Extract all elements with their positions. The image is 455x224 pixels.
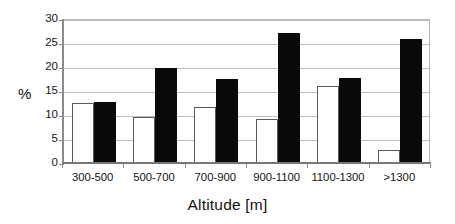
x-axis-category-label: 900-1100 [246,172,307,183]
bar-open-900-1100 [256,119,278,164]
x-axis-tick [123,163,124,168]
x-axis-tick [246,163,247,168]
gridline [63,92,429,93]
y-axis-label: % [18,86,31,101]
y-axis-tick-label: 30 [2,13,58,25]
plot-area [62,19,430,163]
x-axis-category-label: 700-900 [185,172,246,183]
y-axis-tick-label: 10 [2,109,58,121]
x-axis-category-label: >1300 [369,172,430,183]
x-axis-tick [307,163,308,168]
gridline [63,140,429,141]
gridline [63,68,429,69]
x-axis-tick [369,163,370,168]
bar-filled-1100-1300 [339,78,361,164]
bar-filled-300-500 [94,102,116,164]
bar-open-300-500 [72,103,94,164]
x-axis-tick [185,163,186,168]
y-axis-tick-label: 25 [2,37,58,49]
x-axis-category-label: 500-700 [123,172,184,183]
y-axis-tick-label: 0 [2,157,58,169]
gridline [63,116,429,117]
bar-filled-500-700 [155,68,177,164]
y-axis-tick-label: 20 [2,61,58,73]
x-axis-category-label: 1100-1300 [307,172,368,183]
x-axis-category-label: 300-500 [62,172,123,183]
chart-figure: 051015202530 % 300-500500-700700-900900-… [0,0,455,224]
bar-open-700-900 [194,107,216,164]
bar-filled->1300 [400,39,422,164]
y-axis-tick-labels: 051015202530 [0,0,58,224]
bar-filled-900-1100 [278,33,300,164]
x-axis-tick [62,163,63,168]
y-axis-line [62,19,64,164]
bar-open-1100-1300 [317,86,339,164]
x-axis-tick [430,163,431,168]
bar-filled-700-900 [216,79,238,164]
gridline [63,20,429,21]
x-axis-title: Altitude [m] [0,196,455,214]
gridline [63,44,429,45]
y-axis-tick-label: 5 [2,133,58,145]
bar-open-500-700 [133,117,155,164]
